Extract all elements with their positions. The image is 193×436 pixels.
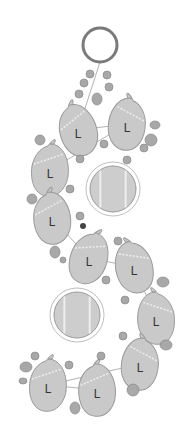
seed-bead — [76, 212, 84, 220]
seed-bead — [123, 156, 131, 164]
seed-bead — [140, 144, 148, 152]
seed-bead — [119, 332, 127, 340]
seed-bead — [19, 378, 27, 384]
seed-bead — [76, 155, 84, 163]
seed-bead — [105, 83, 113, 91]
leaf-label: L — [47, 167, 54, 181]
leaf-label: L — [137, 361, 144, 375]
leaf-label: L — [153, 315, 160, 329]
disc-bead — [90, 166, 136, 212]
seed-bead — [35, 135, 45, 145]
leaf-label: L — [124, 121, 131, 135]
seed-bead — [50, 246, 60, 258]
seed-bead — [102, 276, 110, 284]
seed-bead — [27, 194, 37, 204]
seed-bead — [114, 237, 122, 245]
leaf-label: L — [75, 127, 82, 141]
seed-bead — [31, 352, 39, 360]
seed-bead — [92, 93, 102, 105]
seed-bead — [65, 361, 73, 369]
leaf-label: L — [86, 255, 93, 269]
beading-diagram: LLLLLLLLLL — [0, 0, 193, 436]
seed-bead — [103, 71, 111, 79]
seed-bead — [100, 140, 108, 148]
seed-bead — [66, 185, 74, 193]
leaf-bead: L — [76, 358, 118, 418]
seed-bead — [150, 121, 160, 129]
disc-bead — [54, 292, 100, 338]
seed-bead — [97, 352, 105, 360]
seed-bead — [75, 90, 83, 98]
seed-bead — [157, 277, 169, 287]
jump-ring — [83, 28, 117, 62]
seed-bead — [20, 362, 32, 372]
leaf-label: L — [45, 382, 52, 396]
jump-ring-icon — [83, 28, 117, 62]
leaf-label: L — [94, 387, 101, 401]
leaf-bead: L — [28, 185, 74, 247]
dark-seed-bead — [80, 223, 86, 229]
leaf-label: L — [49, 215, 56, 229]
seed-bead — [80, 79, 88, 87]
seed-bead — [145, 134, 157, 146]
seed-bead — [60, 257, 66, 263]
seed-bead — [70, 402, 80, 414]
leaf-label: L — [131, 264, 138, 278]
seed-bead — [121, 296, 129, 304]
seed-bead — [127, 384, 139, 396]
seed-bead — [160, 340, 172, 350]
seed-bead — [86, 70, 94, 78]
leaf-bead: L — [30, 355, 67, 412]
